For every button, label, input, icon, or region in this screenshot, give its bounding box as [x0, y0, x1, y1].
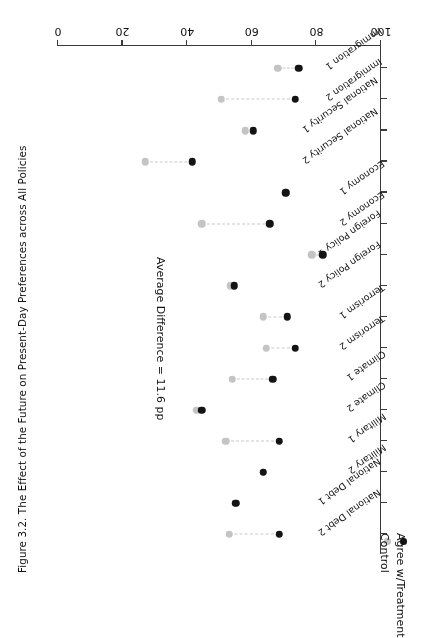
- data-point-control: [222, 437, 230, 445]
- data-point-agree-with-treatment: [250, 127, 258, 135]
- value-axis-line: [58, 45, 381, 46]
- category-axis-tick: [381, 440, 387, 441]
- category-axis-tick: [381, 223, 387, 224]
- value-axis-tick: [315, 40, 316, 46]
- data-point-agree-with-treatment: [292, 344, 300, 352]
- data-point-agree-with-treatment: [276, 531, 284, 539]
- data-point-agree-with-treatment: [282, 189, 290, 197]
- chart-plot-frame: 020406080100 Immigration 1Immigration 2N…: [58, 46, 381, 554]
- category-axis-tick: [381, 471, 387, 472]
- category-axis-tick: [381, 502, 387, 503]
- value-axis-tick: [251, 40, 252, 46]
- connector-line: [229, 534, 279, 535]
- category-axis-tick: [381, 98, 387, 99]
- connector-line: [202, 223, 270, 224]
- connector-line: [232, 379, 272, 380]
- data-point-agree-with-treatment: [230, 282, 238, 290]
- category-axis-tick: [381, 409, 387, 410]
- data-point-control: [225, 531, 233, 539]
- value-axis-tick: [380, 40, 381, 46]
- data-point-control: [259, 313, 267, 321]
- data-point-agree-with-treatment: [269, 375, 277, 383]
- data-point-control: [242, 127, 250, 135]
- value-axis-tick-label: 0: [55, 25, 62, 38]
- data-point-agree-with-treatment: [284, 313, 292, 321]
- value-axis-tick: [121, 40, 122, 46]
- data-point-agree-with-treatment: [266, 220, 274, 228]
- data-point-agree-with-treatment: [259, 469, 267, 477]
- value-axis-tick-label: 60: [245, 25, 259, 38]
- data-point-agree-with-treatment: [188, 158, 196, 166]
- category-axis-tick: [381, 533, 387, 534]
- value-axis-tick: [186, 40, 187, 46]
- data-point-agree-with-treatment: [276, 437, 284, 445]
- value-axis-tick-label: 80: [309, 25, 323, 38]
- data-point-agree-with-treatment: [319, 251, 327, 259]
- data-point-agree-with-treatment: [198, 406, 206, 414]
- data-point-control: [308, 251, 316, 259]
- data-point-control: [217, 96, 225, 104]
- data-point-control: [274, 65, 282, 73]
- connector-line: [226, 441, 279, 442]
- data-point-control: [141, 158, 149, 166]
- category-axis-tick: [381, 347, 387, 348]
- value-axis-tick-label: 40: [180, 25, 194, 38]
- category-axis-tick-label: National Security 2: [300, 106, 380, 166]
- value-axis-tick-label: 20: [116, 25, 130, 38]
- connector-line: [145, 161, 192, 162]
- data-point-control: [198, 220, 206, 228]
- category-axis-tick: [381, 67, 387, 68]
- value-axis-tick: [57, 40, 58, 46]
- legend-label: Agree w/Treatment: [394, 533, 407, 638]
- data-point-control: [229, 375, 237, 383]
- figure-caption: Figure 3.2. The Effect of the Future on …: [16, 146, 28, 573]
- data-point-control: [263, 344, 271, 352]
- category-axis-tick: [381, 254, 387, 255]
- category-axis-tick: [381, 378, 387, 379]
- category-axis-line: [380, 46, 381, 554]
- category-axis-tick: [381, 129, 387, 130]
- connector-line: [221, 99, 295, 100]
- data-point-agree-with-treatment: [295, 65, 303, 73]
- data-point-agree-with-treatment: [232, 500, 240, 508]
- data-point-agree-with-treatment: [292, 96, 300, 104]
